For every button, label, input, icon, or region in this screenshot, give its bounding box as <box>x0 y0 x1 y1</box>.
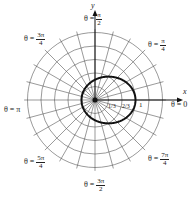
angle-label-pi-over-2: θ = π2 <box>84 12 102 27</box>
angle-label-zero: θ = 0 <box>171 101 187 109</box>
origin-dot <box>93 98 98 103</box>
grid-spoke <box>60 100 95 161</box>
polar-plot <box>0 0 193 200</box>
grid-spoke <box>95 100 145 150</box>
grid-spoke <box>34 100 95 135</box>
angle-label-3pi-over-2: θ = 3π2 <box>84 178 105 193</box>
grid-spoke <box>34 65 95 100</box>
angle-label-pi-over-4: θ = π4 <box>148 38 166 53</box>
angle-label-7pi-over-4: θ = 7π4 <box>148 152 169 167</box>
tick-label-one: 1 <box>139 102 143 109</box>
grid-spoke <box>45 100 95 150</box>
grid-spoke <box>60 39 95 100</box>
tick-label-one-third: 1/3 <box>108 103 116 109</box>
tick-label-two-thirds: 2/3 <box>122 103 130 109</box>
angle-label-pi: θ = π <box>4 106 20 114</box>
x-axis-label: x <box>183 88 187 96</box>
angle-label-5pi-over-4: θ = 5π4 <box>24 155 45 170</box>
grid-spoke <box>95 50 145 100</box>
y-axis-label: y <box>91 2 95 10</box>
angle-label-3pi-over-4: θ = 3π4 <box>24 32 45 47</box>
grid-spoke <box>45 50 95 100</box>
grid-spoke <box>95 39 130 100</box>
grid-spoke <box>95 100 130 161</box>
